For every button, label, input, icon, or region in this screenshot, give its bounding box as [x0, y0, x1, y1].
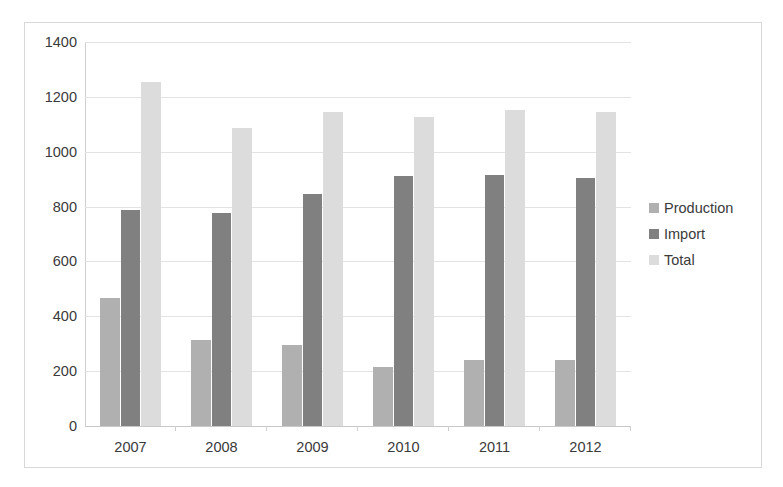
bar-production-2011[interactable]	[464, 360, 484, 426]
legend-item-label: Import	[664, 226, 705, 242]
bar-slot	[100, 42, 120, 426]
bar-production-2010[interactable]	[373, 367, 393, 426]
bar-groups: 200720082009201020112012	[85, 42, 631, 426]
legend-swatch-icon	[649, 203, 659, 213]
x-axis-tick	[266, 426, 267, 431]
bar-slot	[212, 42, 232, 426]
bar-group-2011: 2011	[449, 42, 540, 426]
bar-slot	[121, 42, 141, 426]
x-axis-tick	[448, 426, 449, 431]
y-tick-label-200: 200	[25, 363, 77, 379]
bar-slot	[282, 42, 302, 426]
legend-item-label: Production	[664, 200, 733, 216]
legend-item-import[interactable]: Import	[649, 221, 733, 247]
bar-group-2012: 2012	[540, 42, 631, 426]
bar-import-2012[interactable]	[576, 178, 596, 426]
plot-area: 200720082009201020112012	[85, 42, 631, 426]
x-axis-tick	[539, 426, 540, 431]
bar-slot	[303, 42, 323, 426]
x-tick-label-2010: 2010	[358, 439, 449, 455]
x-axis-tick	[630, 426, 631, 431]
y-tick-label-0: 0	[25, 418, 77, 434]
y-tick-label-1200: 1200	[25, 89, 77, 105]
legend-swatch-icon	[649, 229, 659, 239]
bar-slot	[414, 42, 434, 426]
bar-slot	[596, 42, 616, 426]
x-tick-label-2009: 2009	[267, 439, 358, 455]
bar-slot	[464, 42, 484, 426]
bar-group-2007: 2007	[85, 42, 176, 426]
x-tick-label-2007: 2007	[85, 439, 176, 455]
x-axis-tick	[357, 426, 358, 431]
x-axis-tick	[175, 426, 176, 431]
bar-slot	[485, 42, 505, 426]
x-tick-label-2011: 2011	[449, 439, 540, 455]
chart-container: 1400120010008006004002000 20072008200920…	[24, 22, 762, 468]
bar-slot	[576, 42, 596, 426]
bar-production-2007[interactable]	[100, 298, 120, 426]
bar-slot	[555, 42, 575, 426]
bar-group-2008: 2008	[176, 42, 267, 426]
bar-import-2007[interactable]	[121, 210, 141, 426]
bar-import-2008[interactable]	[212, 213, 232, 426]
gridline-0	[85, 426, 631, 427]
bar-slot	[141, 42, 161, 426]
bar-group-2010: 2010	[358, 42, 449, 426]
bar-production-2012[interactable]	[555, 360, 575, 426]
bar-slot	[394, 42, 414, 426]
bar-import-2010[interactable]	[394, 176, 414, 426]
chart-legend: ProductionImportTotal	[649, 195, 733, 273]
bar-total-2007[interactable]	[141, 82, 161, 426]
bar-total-2011[interactable]	[505, 110, 525, 426]
bar-production-2009[interactable]	[282, 345, 302, 426]
legend-item-production[interactable]: Production	[649, 195, 733, 221]
x-tick-label-2008: 2008	[176, 439, 267, 455]
bar-total-2012[interactable]	[596, 112, 616, 426]
bar-slot	[191, 42, 211, 426]
y-tick-label-600: 600	[25, 253, 77, 269]
bar-slot	[373, 42, 393, 426]
legend-item-label: Total	[664, 252, 695, 268]
y-tick-label-1400: 1400	[25, 34, 77, 50]
bar-slot	[505, 42, 525, 426]
bar-slot	[232, 42, 252, 426]
bar-total-2009[interactable]	[323, 112, 343, 426]
bar-production-2008[interactable]	[191, 340, 211, 426]
legend-item-total[interactable]: Total	[649, 247, 733, 273]
y-axis-tick-labels: 1400120010008006004002000	[25, 42, 77, 426]
bar-total-2010[interactable]	[414, 117, 434, 426]
bar-import-2009[interactable]	[303, 194, 323, 426]
y-tick-label-1000: 1000	[25, 144, 77, 160]
bar-slot	[323, 42, 343, 426]
bar-import-2011[interactable]	[485, 175, 505, 426]
bar-total-2008[interactable]	[232, 128, 252, 426]
x-tick-label-2012: 2012	[540, 439, 631, 455]
bar-group-2009: 2009	[267, 42, 358, 426]
y-tick-label-400: 400	[25, 308, 77, 324]
y-tick-label-800: 800	[25, 199, 77, 215]
legend-swatch-icon	[649, 255, 659, 265]
